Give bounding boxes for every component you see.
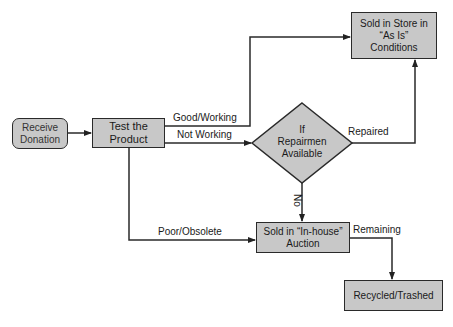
node-label: Conditions	[370, 42, 417, 54]
node-recycled-trashed: Recycled/Trashed	[344, 280, 443, 311]
node-label: Sold in Store in	[360, 18, 428, 30]
edge-label-good-working: Good/Working	[173, 112, 237, 124]
node-label: Available	[262, 148, 342, 160]
node-test-product: Test the Product	[92, 118, 165, 148]
node-sold-in-store: Sold in Store in “As Is” Conditions	[351, 12, 437, 59]
edge-label-remaining: Remaining	[353, 224, 401, 236]
node-decision-repairmen: If Repairmen Available	[262, 124, 342, 160]
edge-label-no: No	[291, 194, 303, 207]
node-label: Repairmen	[262, 136, 342, 148]
node-label: Test the	[109, 120, 148, 133]
node-label: Sold in “In-house”	[264, 226, 343, 238]
edge-label-repaired: Repaired	[348, 126, 389, 138]
node-label: Auction	[286, 238, 319, 250]
edge-label-not-working: Not Working	[177, 129, 232, 141]
node-label: Donation	[20, 134, 60, 146]
node-label: Recycled/Trashed	[353, 290, 433, 302]
node-label: “As Is”	[380, 30, 409, 42]
node-inhouse-auction: Sold in “In-house” Auction	[256, 222, 350, 253]
node-label: Receive	[22, 122, 58, 134]
node-label: If	[262, 124, 342, 136]
node-receive-donation: Receive Donation	[12, 118, 68, 149]
edge-label-poor-obsolete: Poor/Obsolete	[158, 226, 222, 238]
node-label: Product	[110, 133, 148, 146]
